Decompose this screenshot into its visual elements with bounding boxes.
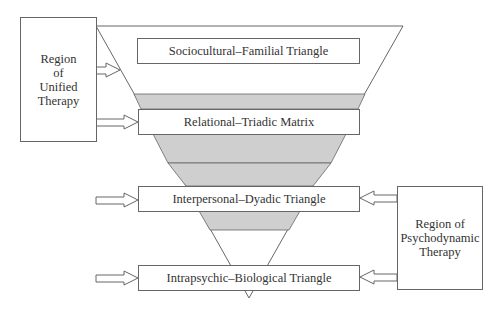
level-relational-triadic: Relational–Triadic Matrix: [138, 109, 360, 135]
region-psychodynamic-label-line: Psychodynamic: [400, 231, 479, 245]
level-label: Relational–Triadic Matrix: [184, 115, 314, 129]
region-psychodynamic-label-line: Region of: [400, 217, 479, 231]
region-unified-label-line: of: [38, 66, 80, 80]
level-label: Intrapsychic–Biological Triangle: [167, 271, 332, 285]
region-unified-label-line: Unified: [38, 80, 80, 94]
arrow-right-to-level-3: [360, 191, 397, 205]
shaded-band-3: [168, 163, 331, 186]
shaded-band-2: [153, 134, 346, 163]
region-psychodynamic-label-line: Therapy: [400, 245, 479, 259]
arrow-left-to-level-3: [96, 193, 138, 207]
region-unified-label-line: Therapy: [38, 94, 80, 108]
arrow-left-to-level-1: [96, 63, 120, 77]
level-intrapsychic-biological: Intrapsychic–Biological Triangle: [138, 265, 360, 291]
level-label: Interpersonal–Dyadic Triangle: [172, 192, 325, 206]
level-interpersonal-dyadic: Interpersonal–Dyadic Triangle: [138, 186, 360, 212]
shaded-band-4: [199, 211, 300, 230]
arrow-right-to-level-4: [360, 270, 397, 284]
arrow-left-to-level-4: [96, 271, 138, 285]
region-unified-therapy: Region of Unified Therapy: [20, 17, 97, 142]
level-label: Sociocultural–Familial Triangle: [169, 44, 328, 58]
shaded-band-1: [134, 94, 365, 109]
level-sociocultural-familial: Sociocultural–Familial Triangle: [137, 38, 360, 64]
region-psychodynamic-therapy: Region of Psychodynamic Therapy: [397, 186, 483, 290]
arrow-left-to-level-2: [96, 115, 138, 129]
region-unified-label-line: Region: [38, 52, 80, 66]
